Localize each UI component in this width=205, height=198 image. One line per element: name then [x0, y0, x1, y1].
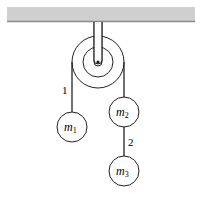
rope-2: 2 [124, 127, 134, 156]
rope-2-label: 2 [128, 136, 134, 148]
mass-m2: m2 [109, 97, 139, 127]
rope-1-label: 1 [62, 84, 68, 96]
ceiling [7, 7, 195, 22]
pulley-diagram: 1 2 m1 m2 m3 [0, 0, 205, 198]
mass-m3: m3 [109, 156, 139, 186]
rope-1: 1 [62, 62, 72, 112]
mass-m1: m1 [57, 112, 87, 142]
pulley [72, 22, 124, 88]
axle-dot [96, 60, 99, 63]
